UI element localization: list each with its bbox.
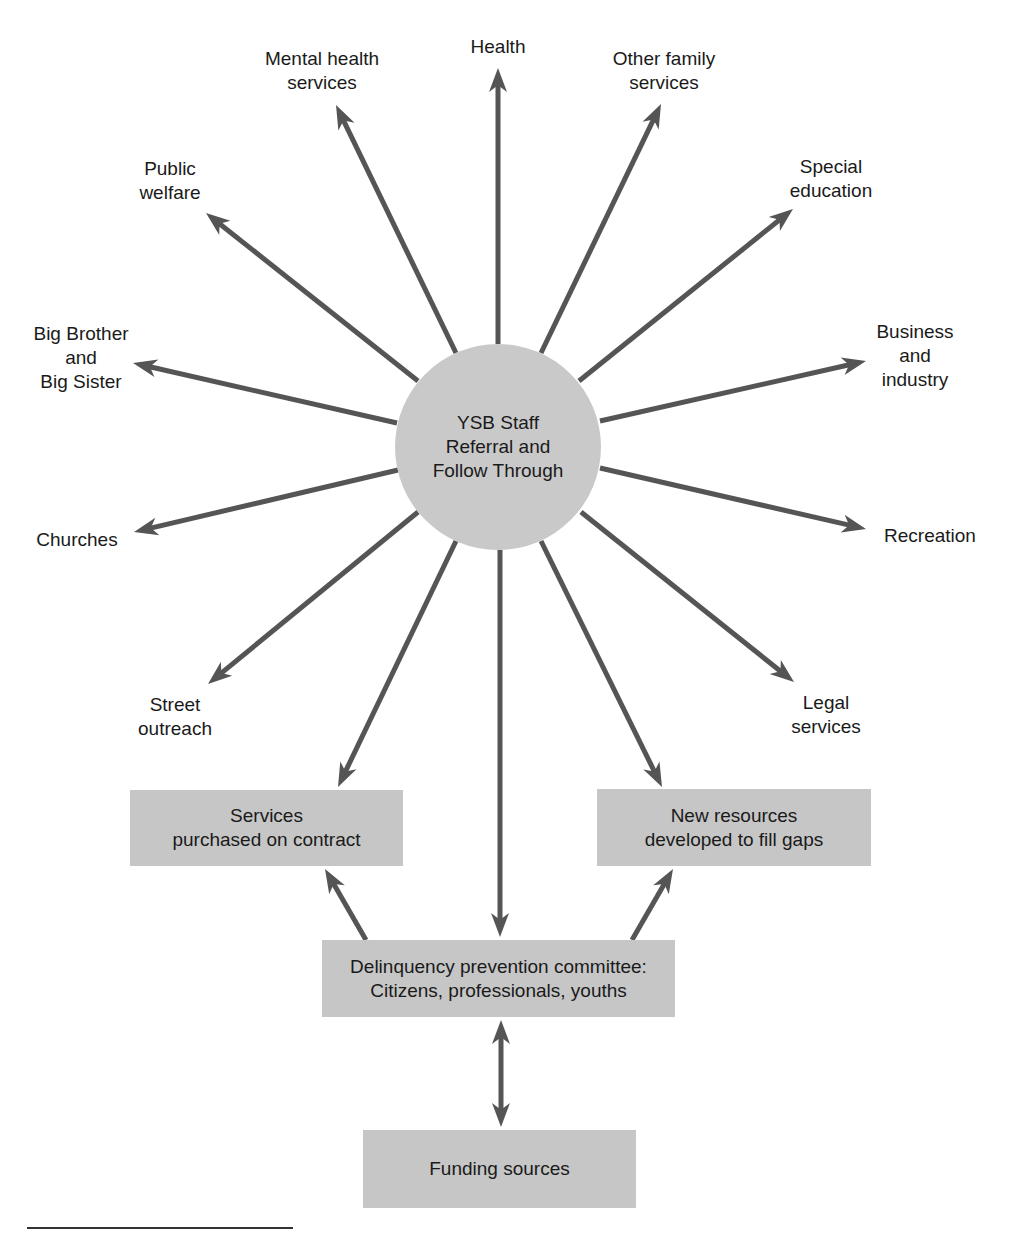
spoke-label-public-welfare: Publicwelfare xyxy=(139,157,200,205)
connector-hub-to-new-resources xyxy=(541,541,655,773)
text-line: services xyxy=(613,71,715,95)
text-line: Business xyxy=(876,320,953,344)
text-line: Big Sister xyxy=(33,370,128,394)
arrow-to-churches xyxy=(150,470,398,528)
text-line: welfare xyxy=(139,181,200,205)
spoke-label-recreation: Recreation xyxy=(884,524,976,548)
text-line: Follow Through xyxy=(433,459,564,483)
arrow-to-special-education xyxy=(579,219,781,381)
spoke-label-other-family-services: Other familyservices xyxy=(613,47,715,95)
text-line: services xyxy=(265,71,379,95)
connector-committee-to-services xyxy=(333,883,366,940)
arrow-to-recreation xyxy=(600,468,850,525)
text-line: and xyxy=(33,346,128,370)
arrow-to-legal-services xyxy=(581,512,781,672)
arrow-to-public-welfare xyxy=(219,223,418,381)
text-line: Special xyxy=(790,155,872,179)
text-line: YSB Staff xyxy=(457,411,539,435)
text-line: Health xyxy=(471,35,526,59)
ysb-staff-hub: YSB StaffReferral andFollow Through xyxy=(395,344,601,550)
text-line: Mental health xyxy=(265,47,379,71)
text-line: and xyxy=(876,344,953,368)
box-funding-sources: Funding sources xyxy=(363,1130,636,1208)
box-services-purchased-on-contract: Servicespurchased on contract xyxy=(130,790,403,866)
arrow-to-other-family-services xyxy=(541,118,654,353)
text-line: Referral and xyxy=(446,435,551,459)
text-line: purchased on contract xyxy=(172,828,360,852)
text-line: Churches xyxy=(36,528,117,552)
text-line: New resources xyxy=(671,804,798,828)
text-line: Recreation xyxy=(884,524,976,548)
spoke-label-churches: Churches xyxy=(36,528,117,552)
connector-committee-to-new-resources xyxy=(632,883,665,940)
text-line: Services xyxy=(230,804,303,828)
box-new-resources-developed: New resourcesdeveloped to fill gaps xyxy=(597,789,871,866)
text-line: Public xyxy=(139,157,200,181)
text-line: Street xyxy=(138,693,212,717)
text-line: services xyxy=(791,715,861,739)
arrow-to-street-outreach xyxy=(220,512,418,674)
text-line: Delinquency prevention committee: xyxy=(350,955,647,979)
spoke-label-street-outreach: Streetoutreach xyxy=(138,693,212,741)
footnote-rule xyxy=(27,1227,293,1229)
connector-hub-to-services xyxy=(345,541,456,773)
text-line: Other family xyxy=(613,47,715,71)
text-line: education xyxy=(790,179,872,203)
text-line: Legal xyxy=(791,691,861,715)
box-delinquency-prevention-committee: Delinquency prevention committee:Citizen… xyxy=(322,940,675,1017)
spoke-label-special-education: Specialeducation xyxy=(790,155,872,203)
spoke-label-big-brother-big-sister: Big BrotherandBig Sister xyxy=(33,322,128,394)
text-line: Citizens, professionals, youths xyxy=(370,979,627,1003)
text-line: outreach xyxy=(138,717,212,741)
spoke-label-mental-health-services: Mental healthservices xyxy=(265,47,379,95)
arrow-to-mental-health-services xyxy=(343,119,456,353)
arrow-to-big-brother-big-sister xyxy=(149,367,397,423)
text-line: industry xyxy=(876,368,953,392)
text-line: Big Brother xyxy=(33,322,128,346)
spoke-label-business-and-industry: Businessandindustry xyxy=(876,320,953,392)
arrow-to-business-and-industry xyxy=(600,365,850,421)
spoke-label-legal-services: Legalservices xyxy=(791,691,861,739)
text-line: Funding sources xyxy=(429,1157,569,1181)
spoke-label-health: Health xyxy=(471,35,526,59)
text-line: developed to fill gaps xyxy=(645,828,824,852)
